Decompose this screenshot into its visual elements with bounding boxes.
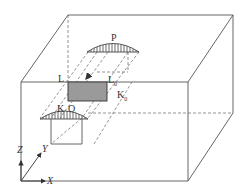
label-k: K	[57, 104, 64, 114]
axis-label-z: Z	[17, 145, 23, 155]
dome-p	[87, 44, 139, 53]
axis-label-y: Y	[42, 144, 48, 154]
small-arrow	[86, 74, 90, 79]
label-l: L	[58, 74, 64, 84]
hidden-edges	[40, 15, 233, 144]
label-l0: L0	[108, 75, 117, 87]
shaded-slab	[68, 82, 107, 101]
lower-square	[51, 119, 82, 144]
label-k0: K0	[117, 90, 127, 102]
label-o: O	[68, 104, 75, 114]
label-p: P	[111, 33, 117, 43]
axis-label-x: X	[47, 176, 53, 186]
label-k0-sub: 0	[124, 96, 127, 102]
label-l0-sub: 0	[114, 81, 117, 87]
axes	[21, 153, 45, 181]
